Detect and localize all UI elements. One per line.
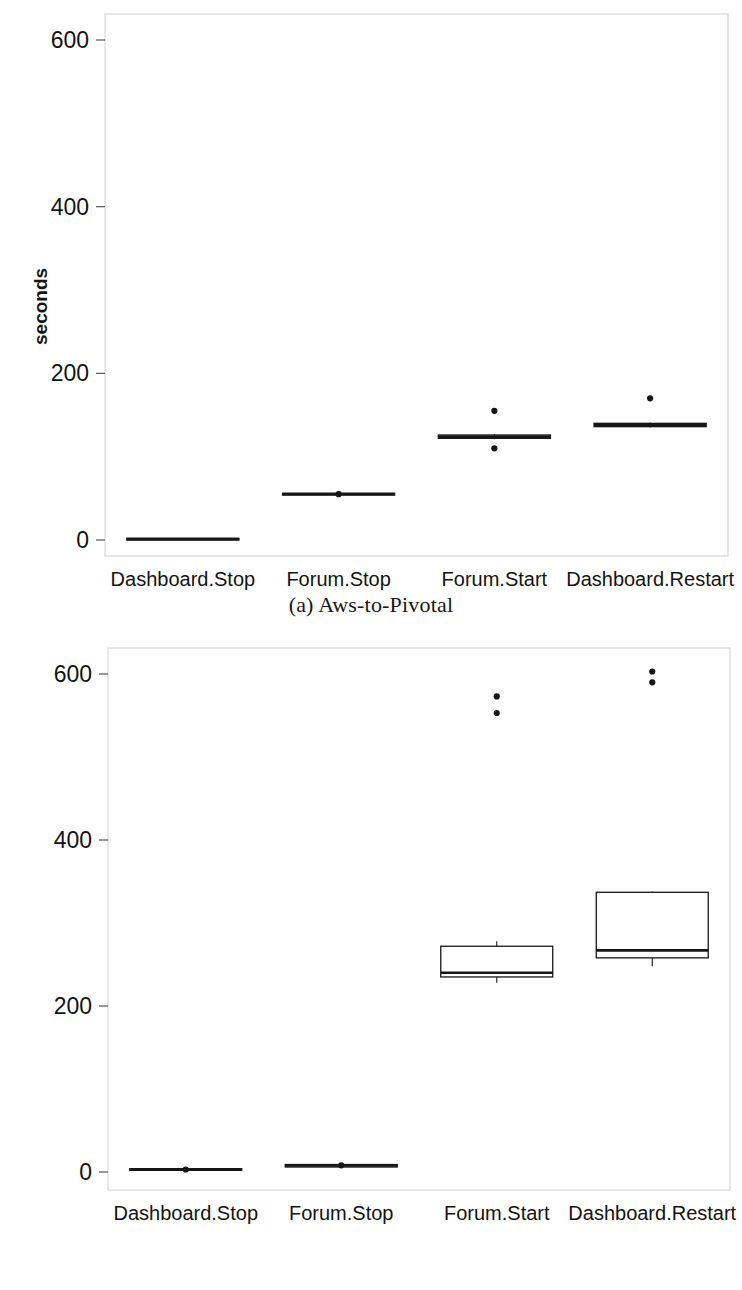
- y-axis-label-a: seconds: [30, 268, 52, 345]
- outlier-point: [491, 408, 497, 414]
- outlier-point: [338, 1162, 344, 1168]
- x-tick-label: Dashboard.Stop: [113, 1202, 258, 1224]
- outlier-point: [494, 710, 500, 716]
- y-tick-label: 0: [79, 1159, 92, 1185]
- outlier-point: [649, 668, 655, 674]
- figure-page: seconds 0200400600Dashboard.StopForum.St…: [0, 0, 742, 1290]
- y-tick-label: 200: [51, 360, 89, 386]
- outlier-point: [183, 1166, 189, 1172]
- x-tick-label: Forum.Start: [444, 1202, 550, 1224]
- boxplot-forum-start: [441, 693, 553, 982]
- boxplot-dashboard-stop: [130, 1166, 242, 1172]
- outlier-point: [494, 693, 500, 699]
- y-tick-label: 600: [54, 661, 92, 687]
- x-tick-label: Dashboard.Stop: [111, 568, 256, 590]
- boxplot-figure-a: seconds 0200400600Dashboard.StopForum.St…: [0, 0, 742, 645]
- y-tick-label: 200: [54, 993, 92, 1019]
- figure-caption-a: (a) Aws-to-Pivotal: [0, 592, 742, 618]
- outlier-point: [491, 445, 497, 451]
- x-tick-label: Forum.Start: [442, 568, 548, 590]
- y-tick-label: 400: [54, 827, 92, 853]
- outlier-point: [647, 395, 653, 401]
- x-tick-label: Forum.Stop: [289, 1202, 393, 1224]
- x-tick-label: Dashboard.Restart: [568, 1202, 736, 1224]
- y-tick-label: 0: [76, 527, 89, 553]
- boxplot-forum-stop: [283, 491, 395, 497]
- boxplot-canvas-a: 0200400600Dashboard.StopForum.StopForum.…: [0, 0, 742, 592]
- y-tick-label: 600: [51, 27, 89, 53]
- box-iqr: [596, 892, 708, 958]
- plot-frame: [105, 14, 728, 556]
- boxplot-dashboard-stop: [127, 538, 239, 540]
- boxplot-dashboard-restart: [596, 668, 708, 966]
- boxplot-forum-stop: [285, 1162, 397, 1168]
- boxplot-dashboard-restart: [594, 395, 706, 427]
- boxplot-canvas-b: 0200400600Dashboard.StopForum.StopForum.…: [0, 630, 742, 1230]
- boxplot-figure-b: seconds 0200400600Dashboard.StopForum.St…: [0, 630, 742, 1290]
- x-tick-label: Dashboard.Restart: [566, 568, 734, 590]
- x-tick-label: Forum.Stop: [286, 568, 390, 590]
- boxplot-forum-start: [438, 408, 550, 452]
- outlier-point: [649, 679, 655, 685]
- outlier-point: [336, 491, 342, 497]
- y-tick-label: 400: [51, 194, 89, 220]
